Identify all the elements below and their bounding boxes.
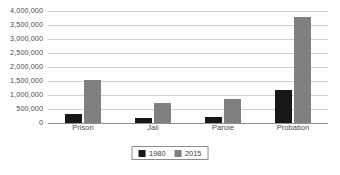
- legend-item-1980[interactable]: 1980: [139, 150, 166, 157]
- legend-label: 1980: [149, 150, 165, 157]
- plot-wrapper: 0500,0001,000,0001,500,0002,000,0002,500…: [0, 0, 340, 140]
- y-axis-tick-label: 2,500,000: [10, 49, 43, 56]
- bars-layer: [48, 11, 328, 123]
- bar-parole-2015: [224, 99, 241, 123]
- y-axis-tick-label: 3,000,000: [10, 35, 43, 42]
- bar-prison-1980: [65, 114, 82, 123]
- y-axis-tick-label: 1,000,000: [10, 91, 43, 98]
- bar-group: [188, 11, 258, 123]
- y-axis-tick-label: 3,500,000: [10, 21, 43, 28]
- x-axis-tick-label: Parole: [188, 124, 258, 132]
- plot-area: [48, 11, 328, 124]
- bar-prison-2015: [84, 80, 101, 123]
- bar-jail-2015: [154, 103, 171, 123]
- x-axis-tick-label: Prison: [48, 124, 118, 132]
- bar-group: [118, 11, 188, 123]
- bar-probation-2015: [294, 17, 311, 123]
- bar-chart: 0500,0001,000,0001,500,0002,000,0002,500…: [0, 0, 340, 175]
- legend-swatch-icon: [175, 150, 182, 157]
- x-axis-tick-label: Probation: [258, 124, 328, 132]
- legend-swatch-icon: [139, 150, 146, 157]
- y-axis-tick-label: 1,500,000: [10, 77, 43, 84]
- bar-group: [258, 11, 328, 123]
- y-axis-tick-label: 0: [39, 119, 43, 126]
- x-axis-tick-label: Jail: [118, 124, 188, 132]
- y-axis-tick-label: 500,000: [16, 105, 43, 112]
- y-axis-tick-label: 4,000,000: [10, 7, 43, 14]
- chart-legend: 19802015: [132, 146, 209, 160]
- bar-group: [48, 11, 118, 123]
- bar-probation-1980: [275, 90, 292, 123]
- legend-label: 2015: [185, 150, 201, 157]
- y-axis: 0500,0001,000,0001,500,0002,000,0002,500…: [0, 11, 46, 123]
- x-axis: PrisonJailParoleProbation: [48, 124, 328, 132]
- legend-item-2015[interactable]: 2015: [175, 150, 202, 157]
- y-axis-tick-label: 2,000,000: [10, 63, 43, 70]
